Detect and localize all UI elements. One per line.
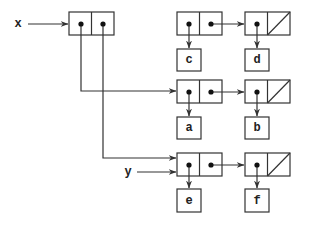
atom-f: f xyxy=(245,195,269,207)
atom-d: d xyxy=(245,54,269,66)
variable-x-label: x xyxy=(12,18,24,30)
diagram-canvas xyxy=(0,0,310,227)
atom-e: e xyxy=(177,195,201,207)
variable-y-label: y xyxy=(122,166,134,178)
atom-c: c xyxy=(177,54,201,66)
atom-a: a xyxy=(177,122,201,134)
box-pointer-diagram: x y c d a b e f xyxy=(0,0,310,227)
atom-b: b xyxy=(245,122,269,134)
